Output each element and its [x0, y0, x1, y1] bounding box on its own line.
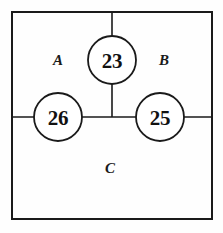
diagram-canvas: A B C 23 26 25: [0, 0, 223, 233]
node-group-23[interactable]: 23: [88, 36, 136, 84]
node-group-26[interactable]: 26: [34, 93, 82, 141]
node-value-25: 25: [150, 106, 170, 130]
node-group-25[interactable]: 25: [136, 93, 184, 141]
region-label-c: C: [105, 160, 116, 176]
region-label-b: B: [158, 52, 169, 68]
region-diagram: A B C 23 26 25: [0, 0, 223, 233]
region-label-a: A: [52, 52, 63, 68]
node-value-26: 26: [48, 106, 68, 130]
node-value-23: 23: [102, 49, 122, 73]
